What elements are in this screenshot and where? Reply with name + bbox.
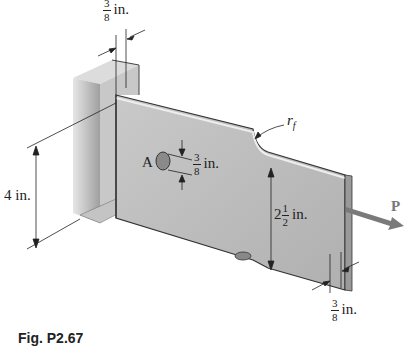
hole-a [156,152,170,170]
plate [116,95,352,291]
hole-label: A [142,155,153,170]
hole-diameter-label: 38in. [193,152,219,177]
fillet-radius-label: rf [287,113,296,131]
figure-caption: Fig. P2.67 [18,330,83,346]
height-label: 4 in. [4,188,31,203]
narrow-width-label: 212in. [274,203,307,228]
top-thickness-label: 38in. [103,0,129,23]
load-label: P [391,199,400,214]
bottom-thickness-label: 38in. [331,298,357,323]
